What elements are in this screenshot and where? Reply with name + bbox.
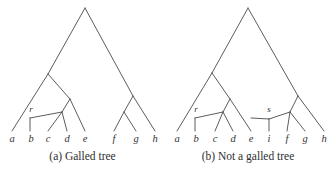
leaf-label-a7: g — [133, 133, 138, 144]
edge-root-right-a — [85, 8, 133, 96]
edge-fg-to-g-b — [290, 112, 305, 131]
edge-fg-to-f-b — [287, 112, 290, 131]
edge-cde-to-e — [70, 99, 85, 131]
leaf-label-b2: b — [193, 133, 198, 144]
edge-right-to-h-a — [133, 96, 155, 131]
caption-panel-b: (b) Not a galled tree — [165, 150, 331, 162]
edge-reticulation-s-left-b — [251, 118, 269, 119]
panel-galled-tree: r a b c d e f g h (a) Galled tree — [0, 0, 165, 174]
edge-reticulation-r-b — [195, 112, 223, 118]
reticulation-label-s-b: s — [267, 104, 271, 114]
edge-reticulation-r-a — [30, 112, 62, 118]
edge-right-to-fg-b — [290, 96, 298, 112]
leaf-label-a8: h — [152, 133, 157, 144]
leaf-label-b8: g — [302, 133, 307, 144]
leaf-label-a1: a — [9, 133, 14, 144]
leaf-label-b6: i — [268, 133, 271, 144]
edge-root-right-b — [248, 8, 298, 96]
leaf-label-a6: f — [113, 133, 118, 144]
edge-left-to-cde-b — [212, 73, 230, 99]
leaf-label-b1: a — [174, 133, 179, 144]
edge-left-to-cde — [48, 74, 70, 99]
edge-cd-to-c-b — [215, 112, 223, 131]
edge-right-to-h-b — [298, 96, 324, 131]
edge-cd-to-d-b — [223, 112, 233, 131]
edge-left-to-a-b — [177, 73, 212, 131]
leaf-label-a4: d — [64, 133, 70, 144]
edge-cd-to-c — [48, 112, 62, 131]
edge-cde-to-e-b — [230, 99, 251, 131]
edge-fg-to-f-a — [114, 112, 124, 131]
edge-fg-to-g-a — [124, 112, 136, 131]
leaf-label-a2: b — [28, 133, 33, 144]
tree-diagram-b: r s a b c d e i f g h — [165, 0, 331, 150]
caption-panel-a: (a) Galled tree — [0, 150, 165, 162]
leaf-label-b5: e — [249, 133, 254, 144]
reticulation-label-r-a: r — [29, 104, 33, 114]
leaf-label-b3: c — [213, 133, 218, 144]
panel-not-galled-tree: r s a b c d e i f g h (b) Not a galled t… — [165, 0, 331, 174]
edge-reticulation-s-right-b — [269, 112, 290, 119]
edge-cde-to-cd-b — [223, 99, 230, 112]
leaf-label-b9: h — [321, 133, 326, 144]
edge-cd-to-d — [62, 112, 67, 131]
leaf-label-a3: c — [46, 133, 51, 144]
leaf-label-a5: e — [83, 133, 88, 144]
tree-diagram-a: r a b c d e f g h — [0, 0, 165, 150]
edge-root-left-a — [48, 8, 85, 74]
leaf-label-b7: f — [286, 133, 291, 144]
edge-cde-to-cd — [62, 99, 70, 112]
edge-root-left-b — [212, 8, 248, 73]
edge-right-to-fg-a — [124, 96, 133, 112]
reticulation-label-r-b: r — [194, 104, 198, 114]
leaf-label-b4: d — [230, 133, 236, 144]
figure-galled-trees: r a b c d e f g h (a) Galled tree — [0, 0, 331, 174]
